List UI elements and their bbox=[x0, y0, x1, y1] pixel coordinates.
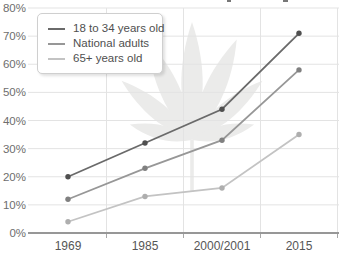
data-point bbox=[142, 140, 147, 145]
data-point bbox=[219, 107, 224, 112]
y-axis-tick-label: 70% bbox=[3, 30, 26, 42]
data-point bbox=[65, 174, 70, 179]
data-point bbox=[296, 67, 301, 72]
data-point bbox=[65, 197, 70, 202]
x-axis-category-label: 2000/2001 bbox=[194, 239, 251, 253]
data-point bbox=[142, 166, 147, 171]
y-axis-tick-label: 40% bbox=[3, 115, 26, 127]
legend-item: 65+ years old bbox=[48, 51, 154, 66]
y-axis-tick-label: 0% bbox=[9, 227, 26, 239]
data-point bbox=[65, 219, 70, 224]
leaf-stem bbox=[190, 140, 194, 192]
legend-line-swatch bbox=[48, 43, 65, 45]
data-point bbox=[219, 137, 224, 142]
y-axis-tick-label: 10% bbox=[3, 199, 26, 211]
x-axis-category-label: 2015 bbox=[286, 239, 313, 253]
chart-panel: 0%10%20%30%40%50%60%70%80%196919852000/2… bbox=[0, 0, 339, 257]
x-axis-category-label: 1985 bbox=[132, 239, 159, 253]
legend-item: National adults bbox=[48, 36, 154, 51]
legend-line-swatch bbox=[48, 28, 65, 30]
y-axis-tick-label: 60% bbox=[3, 58, 26, 70]
legend-line-swatch bbox=[48, 58, 65, 60]
data-point bbox=[296, 31, 301, 36]
legend-label: 18 to 34 years old bbox=[73, 21, 164, 36]
y-axis-tick-label: 20% bbox=[3, 171, 26, 183]
y-axis-tick-label: 50% bbox=[3, 86, 26, 98]
data-point bbox=[296, 132, 301, 137]
x-axis-category-label: 1969 bbox=[55, 239, 82, 253]
legend-label: 65+ years old bbox=[73, 51, 142, 66]
data-point bbox=[142, 194, 147, 199]
y-axis-tick-label: 80% bbox=[3, 2, 26, 14]
y-axis-tick-label: 30% bbox=[3, 143, 26, 155]
legend-item: 18 to 34 years old bbox=[48, 21, 154, 36]
legend: 18 to 34 years old National adults 65+ y… bbox=[37, 13, 163, 74]
legend-label: National adults bbox=[73, 36, 149, 51]
data-point bbox=[219, 185, 224, 190]
